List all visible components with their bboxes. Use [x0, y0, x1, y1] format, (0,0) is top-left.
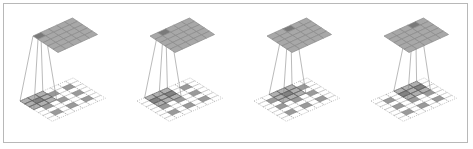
input-cell: [306, 90, 318, 96]
panel-2: [137, 18, 222, 121]
input-cell: [285, 109, 297, 115]
panel-1: [20, 18, 105, 121]
input-cell: [183, 102, 195, 108]
input-cell: [315, 96, 327, 102]
input-grid: [254, 78, 339, 121]
input-cell: [66, 102, 78, 108]
input-cell: [300, 102, 312, 108]
output-grid: [150, 18, 215, 53]
input-cell: [275, 103, 287, 109]
input-cell: [189, 90, 201, 96]
input-cell: [57, 97, 69, 103]
transposed-convolution-diagram: [0, 0, 473, 149]
input-cell: [168, 109, 180, 115]
panel-3: [254, 18, 339, 121]
input-cell: [417, 102, 429, 108]
input-cell: [402, 109, 414, 115]
input-cell-zero: [66, 78, 78, 84]
input-cell-zero: [254, 98, 266, 104]
input-cell: [81, 96, 93, 102]
input-cell: [432, 96, 444, 102]
output-grid: [33, 18, 98, 53]
panel-4: [371, 18, 456, 121]
output-grid: [384, 18, 449, 53]
input-cell: [72, 90, 84, 96]
input-cell-zero: [300, 78, 312, 84]
input-cell: [63, 84, 75, 90]
input-cell: [383, 97, 395, 103]
input-cell-zero: [50, 85, 62, 91]
input-cell: [198, 96, 210, 102]
input-cell: [51, 109, 63, 115]
input-cell-zero: [371, 98, 383, 104]
input-cell: [392, 103, 404, 109]
output-grid: [267, 18, 332, 53]
input-cell: [180, 84, 192, 90]
input-cell-zero: [183, 78, 195, 84]
